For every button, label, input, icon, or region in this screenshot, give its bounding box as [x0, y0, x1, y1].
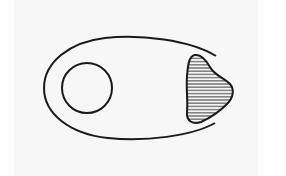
- inner-circle: [62, 63, 112, 113]
- diagram-canvas: [0, 0, 286, 176]
- diagram-svg: [0, 0, 286, 176]
- hatched-blob: [187, 55, 233, 123]
